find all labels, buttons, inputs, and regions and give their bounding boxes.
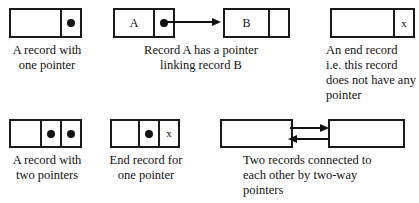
record-a-data-cell: A <box>115 10 153 36</box>
record-end-data-cell <box>332 10 393 36</box>
record-end-one-null-cell: x <box>158 121 178 146</box>
record-box-left-twoway <box>220 119 293 148</box>
record-left-twoway-cell <box>222 121 291 146</box>
record-data-cell <box>11 10 60 36</box>
record-box-right-twoway <box>328 119 405 148</box>
pointer-dot-icon <box>67 19 75 27</box>
arrow-shaft <box>296 138 332 140</box>
arrow-shaft <box>166 21 216 23</box>
record-pointer-cell <box>60 10 80 36</box>
pointer-arrow-left-to-right <box>290 124 332 134</box>
caption-two-pointers: A record with two pointers <box>2 153 92 183</box>
caption-end-record-one-pointer: End record for one pointer <box>100 153 192 183</box>
record-a-label: A <box>130 17 139 29</box>
record-box-end: x <box>330 8 415 38</box>
record-b-label: B <box>242 17 250 29</box>
caption-two-way-pointers: Two records connected to each other by t… <box>243 153 419 198</box>
arrow-head-right-icon <box>212 18 221 26</box>
pointer-arrow-a-to-b <box>166 18 224 28</box>
record-end-null-cell: x <box>393 10 413 36</box>
record-right-twoway-cell <box>330 121 403 146</box>
pointer-arrow-right-to-left <box>288 135 332 145</box>
pointer-dot-icon <box>67 130 75 138</box>
pointer-dot-icon <box>145 130 153 138</box>
arrow-head-left-icon <box>288 135 297 143</box>
caption-end-record: An end record i.e. this record does not … <box>326 43 419 103</box>
pointer-notation-figure: A record with one pointer A B Record A h… <box>0 0 419 203</box>
null-pointer-x-icon: x <box>166 128 172 139</box>
arrow-shaft <box>290 127 324 129</box>
record-two-ptr-data-cell <box>11 121 40 146</box>
record-box-end-one-pointer: x <box>110 119 180 148</box>
record-box-one-pointer <box>9 8 82 38</box>
record-end-one-pointer-cell <box>138 121 158 146</box>
null-pointer-x-icon: x <box>401 18 407 29</box>
record-end-one-data-cell <box>112 121 138 146</box>
caption-one-pointer: A record with one pointer <box>2 43 92 73</box>
record-b-pointer-cell <box>268 10 288 36</box>
record-b-data-cell: B <box>225 10 268 36</box>
record-pointer-cell-1 <box>40 121 60 146</box>
record-box-b: B <box>223 8 290 38</box>
record-pointer-cell-2 <box>60 121 80 146</box>
pointer-dot-icon <box>47 130 55 138</box>
record-box-two-pointers <box>9 119 82 148</box>
caption-linked-records: Record A has a pointer linking record B <box>105 43 297 73</box>
